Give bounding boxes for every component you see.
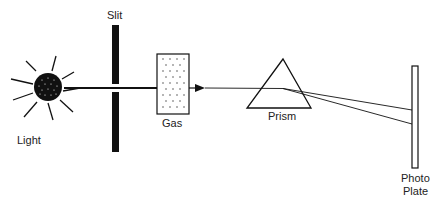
arrow-head-icon [195,84,205,92]
dispersed-ray-1 [283,89,412,111]
sun-disc [34,73,62,101]
slit-label: Slit [107,9,122,21]
gas-cell [157,54,189,114]
photo-plate-label-line1: Photo [401,172,430,184]
photo-plate-label-line2: Plate [403,185,428,197]
slit-lower-bar [112,92,119,152]
slit-upper-bar [112,25,119,84]
dispersed-ray-2 [283,89,412,125]
gas-label: Gas [162,117,182,129]
light-label: Light [17,134,41,146]
prism [247,59,311,108]
beam-to-prism [205,88,283,89]
photo-plate [412,66,418,168]
spectroscope-diagram [0,0,442,203]
prism-label: Prism [268,110,296,122]
